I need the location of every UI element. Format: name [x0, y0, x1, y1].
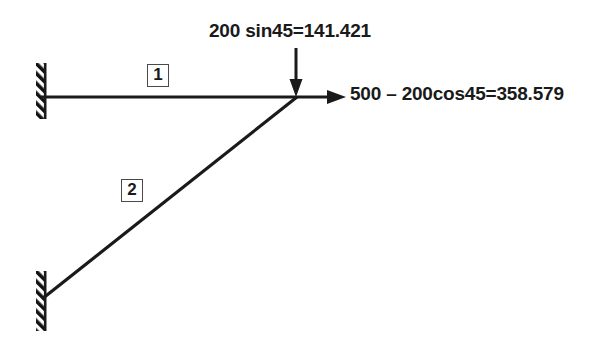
- horizontal-force-arrow: [297, 90, 346, 104]
- member-tag-2: 2: [121, 179, 143, 202]
- diagram-canvas: 200 sin45=141.421 500 – 200cos45=358.579…: [0, 0, 615, 347]
- vertical-force-label: 200 sin45=141.421: [209, 20, 371, 42]
- horizontal-force-label: 500 – 200cos45=358.579: [350, 83, 564, 105]
- upper-fixed-support: [36, 63, 45, 119]
- member-tag-1: 1: [147, 64, 169, 87]
- lower-fixed-support: [36, 271, 45, 331]
- truss-diagram-svg: [0, 0, 615, 347]
- member-2-line: [42, 97, 297, 299]
- vertical-force-arrow: [290, 48, 303, 97]
